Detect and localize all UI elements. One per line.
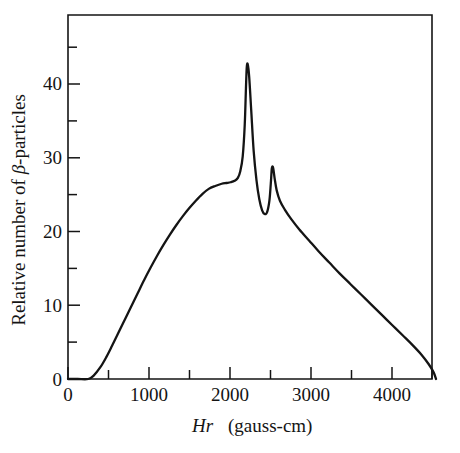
y-tick-label-30: 30 [43,147,62,168]
y-axis-title-prefix: Relative number of [8,174,29,325]
y-axis-title-beta-symbol: β [8,164,29,175]
x-tick-label-4000: 4000 [373,384,411,405]
x-tick-label-2000: 2000 [211,384,249,405]
y-axis-title-text: Relative number of β-particles [8,94,29,326]
x-tick-label-1000: 1000 [130,384,168,405]
y-tick-label-10: 10 [43,295,62,316]
x-axis-title: Hr (gauss-cm) [191,415,312,437]
x-axis-title-symbol: Hr [191,415,214,436]
y-tick-label-0: 0 [53,369,63,390]
y-axis-title-suffix: -particles [8,94,29,165]
x-tick-label-3000: 3000 [292,384,330,405]
x-axis-title-units: (gauss-cm) [228,415,312,437]
y-tick-label-40: 40 [43,73,62,94]
y-axis-title: Relative number of β-particles [8,94,29,326]
y-tick-label-20: 20 [43,221,62,242]
x-tick-label-0: 0 [63,384,73,405]
beta-spectrum-figure: 0 10 20 30 40 0 1000 2000 3000 4000 Hr (… [0,0,460,453]
beta-spectrum-chart: 0 10 20 30 40 0 1000 2000 3000 4000 Hr (… [0,0,460,453]
